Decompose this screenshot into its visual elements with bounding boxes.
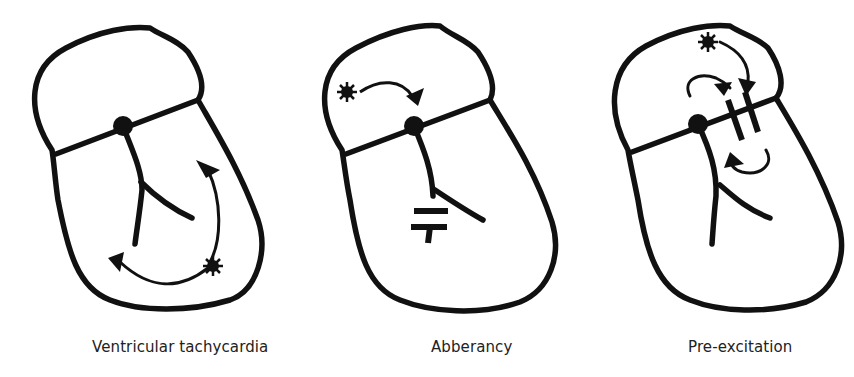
right-branch [435,190,483,220]
panel-abberancy: Abberancy [290,0,580,377]
heart-outline [325,26,556,311]
panel-ventricular-tachycardia: Ventricular tachycardia [0,0,290,377]
heart-diagram-pre-excitation [580,0,854,377]
atrial-ectopic-arrow [360,83,412,96]
panel-pre-excitation: Pre-excitation [580,0,854,377]
heart-outline [35,28,262,309]
caption: Abberancy [431,338,512,356]
av-node-icon [113,116,133,136]
heart-diagram-abberancy [290,0,580,377]
ectopic-focus-icon [337,82,357,102]
his-bundle [698,124,716,244]
av-node-icon [688,114,708,134]
arrowhead-icon [108,252,124,272]
conduction-block-icon [411,211,448,243]
heart-diagram-vt [0,0,290,377]
pathway-arrow [720,42,748,82]
heart-outline [614,26,841,311]
arrowhead-icon [738,78,756,96]
re-entry-arrow-left [120,262,208,284]
caption: Pre-excitation [688,338,792,356]
accessory-pathway-icon [728,92,758,140]
arrowhead-icon [724,152,744,168]
av-node-icon [404,116,424,136]
right-branch [141,182,192,218]
ectopic-focus-icon [698,32,718,52]
his-bundle [414,126,433,196]
re-entry-arrow-up [208,170,219,262]
caption: Ventricular tachycardia [92,338,268,356]
right-branch [720,185,770,218]
ectopic-focus-icon [203,256,223,276]
arrowhead-icon [196,160,220,178]
his-bundle [123,126,142,244]
